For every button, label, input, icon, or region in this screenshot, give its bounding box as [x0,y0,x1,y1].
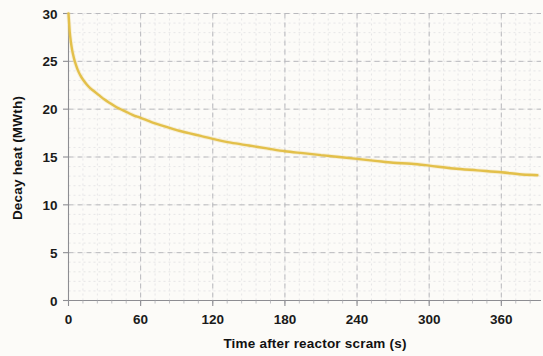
x-tick-label: 0 [65,312,73,327]
y-tick-label: 0 [50,294,58,309]
y-tick-label: 15 [42,150,58,165]
x-tick-label: 300 [418,312,441,327]
x-tick-label: 60 [133,312,148,327]
x-tick-label: 360 [490,312,513,327]
y-tick-label: 30 [42,7,57,22]
x-tick-label: 240 [346,312,369,327]
y-tick-label: 25 [42,54,58,69]
figure-background [0,0,543,356]
y-tick-label: 10 [42,198,57,213]
x-axis-title: Time after reactor scram (s) [223,336,406,351]
y-tick-label: 5 [50,246,58,261]
x-tick-label: 120 [202,312,225,327]
chart-canvas: 060120180240300360 051015202530 Time aft… [0,0,543,356]
y-tick-label: 20 [42,102,57,117]
y-axis-title: Decay heat (MWth) [10,96,25,220]
x-tick-label: 180 [274,312,297,327]
decay-heat-chart-figure: 060120180240300360 051015202530 Time aft… [0,0,543,356]
